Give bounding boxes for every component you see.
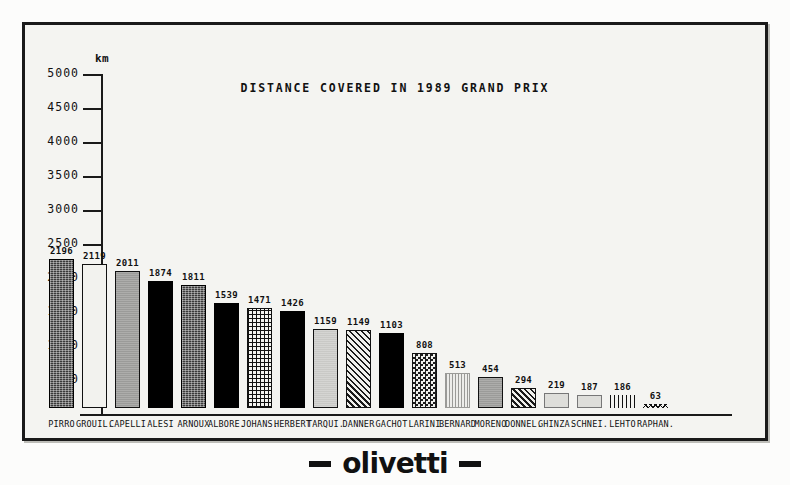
- bar[interactable]: [148, 281, 173, 408]
- bar-value-label: 294: [515, 375, 532, 385]
- logo-dash-left-icon: [309, 461, 331, 467]
- bar[interactable]: [643, 404, 668, 408]
- bar[interactable]: [577, 395, 602, 408]
- bars-layer: 2196211920111874181115391471142611591149…: [25, 25, 765, 438]
- bar-value-label: 808: [416, 340, 433, 350]
- bar[interactable]: [511, 388, 536, 408]
- bar-value-label: 219: [548, 380, 565, 390]
- bar-value-label: 513: [449, 360, 466, 370]
- x-axis-category-label: RAPHAN.: [636, 419, 675, 429]
- bar-value-label: 1539: [215, 290, 238, 300]
- bar-value-label: 1811: [182, 272, 205, 282]
- bar-value-label: 63: [650, 391, 661, 401]
- bar[interactable]: [412, 353, 437, 408]
- bar-value-label: 1874: [149, 268, 172, 278]
- bar[interactable]: [346, 330, 371, 408]
- bar[interactable]: [544, 393, 569, 408]
- chart-frame: km DISTANCE COVERED IN 1989 GRAND PRIX 5…: [22, 22, 768, 441]
- bar[interactable]: [610, 395, 635, 408]
- bar[interactable]: [181, 285, 206, 408]
- bar-value-label: 1426: [281, 298, 304, 308]
- bar-value-label: 187: [581, 382, 598, 392]
- bar[interactable]: [49, 259, 74, 408]
- bar-value-label: 1103: [380, 320, 403, 330]
- bar[interactable]: [478, 377, 503, 408]
- olivetti-logo: olivetti: [309, 450, 481, 478]
- bar[interactable]: [82, 264, 107, 408]
- bar-value-label: 186: [614, 382, 631, 392]
- bar-value-label: 454: [482, 364, 499, 374]
- bar-value-label: 2196: [50, 246, 73, 256]
- bar-value-label: 2119: [83, 251, 106, 261]
- bar-value-label: 2011: [116, 258, 139, 268]
- bar[interactable]: [379, 333, 404, 408]
- bar[interactable]: [280, 311, 305, 408]
- bar-value-label: 1149: [347, 317, 370, 327]
- page-root: km DISTANCE COVERED IN 1989 GRAND PRIX 5…: [0, 0, 790, 485]
- bar-value-label: 1159: [314, 316, 337, 326]
- footer: olivetti: [0, 443, 790, 485]
- logo-dash-right-icon: [459, 461, 481, 467]
- bar[interactable]: [214, 303, 239, 408]
- bar[interactable]: [313, 329, 338, 408]
- plot-area: km DISTANCE COVERED IN 1989 GRAND PRIX 5…: [25, 25, 765, 438]
- logo-text: olivetti: [342, 450, 448, 478]
- bar[interactable]: [115, 271, 140, 408]
- bar[interactable]: [445, 373, 470, 408]
- bar-value-label: 1471: [248, 295, 271, 305]
- bar[interactable]: [247, 308, 272, 408]
